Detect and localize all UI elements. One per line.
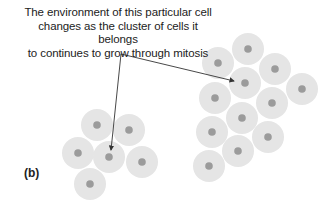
- cell-nucleus: [264, 133, 272, 141]
- cell-nucleus: [205, 162, 213, 170]
- cell-nucleus: [241, 79, 249, 87]
- small-cell-cluster: [62, 109, 158, 200]
- cell-nucleus: [238, 114, 246, 122]
- caption-line-3: to continues to grow through mitosis: [18, 47, 218, 61]
- cell-nucleus: [234, 147, 242, 155]
- cell-nucleus: [211, 94, 219, 102]
- caption-line-2: changes as the cluster of cells it belon…: [18, 20, 218, 47]
- cell-nucleus: [105, 153, 113, 161]
- cell-nucleus: [208, 128, 216, 136]
- cell-nucleus: [268, 99, 276, 107]
- cell-nucleus: [74, 149, 82, 157]
- panel-label: (b): [24, 166, 39, 180]
- cell-nucleus: [271, 65, 279, 73]
- cell-nucleus: [298, 85, 306, 93]
- caption-line-1: The environment of this particular cell: [18, 6, 218, 20]
- cell-nucleus: [244, 45, 252, 53]
- cell-nucleus: [214, 59, 222, 67]
- cell-nucleus: [138, 158, 146, 166]
- cell-nucleus: [86, 180, 94, 188]
- cell-nucleus: [125, 126, 133, 134]
- cell-nucleus: [93, 121, 101, 129]
- caption-text: The environment of this particular cell …: [18, 6, 218, 60]
